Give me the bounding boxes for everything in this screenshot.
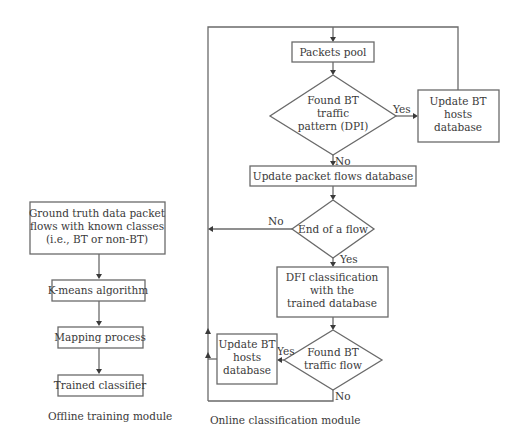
arrowhead-icon: [96, 321, 102, 326]
offline-training-module: Ground truth data packet flows with know…: [29, 202, 172, 422]
ground-truth-line-2: flows with known classes: [30, 220, 164, 232]
update-hosts-top-line-1: Update BT: [429, 95, 486, 107]
offline-caption: Offline training module: [48, 410, 172, 422]
ground-truth-line-1: Ground truth data packet: [29, 207, 166, 219]
online-classification-module: Packets pool Found BT traffic pattern (D…: [205, 27, 499, 426]
arrow-flow-no: [208, 390, 333, 401]
arrowhead-icon: [277, 357, 282, 363]
dpi-decision-line-1: Found BT: [307, 94, 358, 106]
arrowhead-icon: [96, 274, 102, 279]
mapping-label: Mapping process: [54, 331, 146, 343]
flow-decision-line-1: Found BT: [307, 346, 358, 358]
arrowhead-icon: [96, 369, 102, 374]
arrowhead-icon: [205, 328, 211, 334]
dfi-line-3: trained database: [287, 297, 377, 309]
dpi-no-label: No: [335, 155, 351, 167]
arrowhead-icon: [208, 226, 213, 232]
arrowhead-icon: [205, 352, 211, 358]
dpi-decision-line-2: traffic: [317, 107, 349, 119]
arrowhead-icon: [413, 113, 418, 119]
dpi-decision-line-3: pattern (DPI): [298, 120, 369, 132]
kmeans-label: K-means algorithm: [48, 284, 149, 296]
online-caption: Online classification module: [210, 414, 361, 426]
dfi-line-1: DFI classification: [286, 271, 379, 283]
ground-truth-line-3: (i.e., BT or non-BT): [46, 233, 148, 245]
end-flow-label: End of a flow: [298, 223, 368, 235]
update-hosts-bottom-line-1: Update BT: [218, 338, 275, 350]
flow-no-label: No: [335, 390, 351, 402]
update-flows-label: Update packet flows database: [253, 170, 413, 182]
end-yes-label: Yes: [339, 253, 358, 265]
update-hosts-top-line-2: hosts: [444, 108, 472, 120]
dpi-yes-label: Yes: [392, 103, 411, 115]
update-hosts-bottom-line-3: database: [223, 364, 271, 376]
arrowhead-icon: [330, 262, 336, 267]
flow-decision-line-2: traffic flow: [304, 359, 362, 371]
end-no-label: No: [268, 215, 284, 227]
update-hosts-bottom-line-2: hosts: [233, 351, 261, 363]
dfi-line-2: with the: [310, 284, 354, 296]
trained-classifier-label: Trained classifier: [54, 379, 148, 391]
flow-yes-label: Yes: [276, 345, 295, 357]
flowchart-canvas: Ground truth data packet flows with know…: [0, 0, 525, 447]
update-hosts-top-line-3: database: [434, 121, 482, 133]
arrowhead-icon: [330, 37, 336, 42]
packets-pool-label: Packets pool: [300, 46, 368, 58]
